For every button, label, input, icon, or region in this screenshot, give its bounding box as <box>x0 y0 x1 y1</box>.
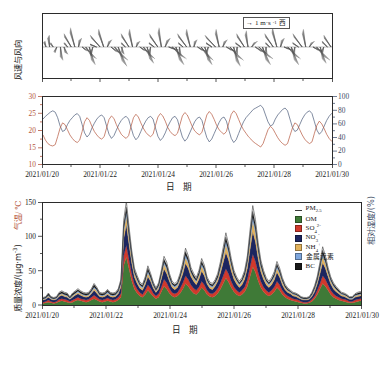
meteo-left-tick-1: 25 <box>18 110 36 117</box>
composition-y-tick-1: 100 <box>18 233 36 240</box>
wind-scale-exponent: -1 <box>273 19 277 27</box>
meteo-right-ticks <box>333 96 339 166</box>
legend-label-BC: BC <box>306 262 315 270</box>
composition-date-tick-3: 2021/01/26 <box>205 312 263 319</box>
legend-label-PM2.5: PM2.5 <box>306 204 322 215</box>
legend-swatch-PM2.5 <box>295 207 302 214</box>
legend-swatch-SO4 <box>295 225 302 232</box>
composition-y-tick-2: 50 <box>18 268 36 275</box>
composition-date-tick-0: 2021/01/20 <box>13 312 71 319</box>
meteo-left-ticks <box>37 96 43 166</box>
wind-scale-legend: →1 m·s-1 西 <box>243 17 290 29</box>
legend-swatch-NH4 <box>295 244 302 251</box>
meteo-date-tick-2: 2021/01/24 <box>129 171 187 178</box>
legend-swatch-metals <box>295 253 302 260</box>
composition-date-tick-2: 2021/01/24 <box>141 312 199 319</box>
wind-x-ticks <box>42 79 334 84</box>
meteo-date-tick-0: 2021/01/20 <box>13 171 71 178</box>
meteo-left-tick-2: 20 <box>18 127 36 134</box>
meteo-right-tick-2: 60 <box>338 120 345 127</box>
composition-panel: 质量浓度/(μg·m-3) 150 100 50 0 <box>0 190 372 366</box>
meteo-right-tick-4: 20 <box>338 147 345 154</box>
meteo-right-tick-3: 40 <box>338 134 345 141</box>
meteo-date-tick-1: 2021/01/22 <box>71 171 129 178</box>
composition-date-tick-4: 2021/01/28 <box>269 312 327 319</box>
legend-label-metals: 金属元素 <box>306 253 334 261</box>
meteo-right-tick-0: 100 <box>338 93 349 100</box>
composition-legend: PM2.5 OM SO42- NO3- NH4+ 金属元素 BC <box>295 206 334 270</box>
wind-arrow-icon: → <box>246 19 253 27</box>
meteo-plot-area <box>42 96 333 165</box>
composition-y-axis-label-exponent: -3 <box>12 248 18 254</box>
composition-y-tick-0: 150 <box>18 199 36 206</box>
wind-y-axis-label: 风速与风向 <box>11 40 23 80</box>
composition-y-tick-3: 0 <box>18 302 36 309</box>
wind-direction-label: 西 <box>279 19 286 27</box>
legend-item-PM2.5[interactable]: PM2.5 <box>295 206 334 214</box>
meteo-date-tick-3: 2021/01/26 <box>187 171 245 178</box>
composition-x-axis-label: 日 期 <box>172 323 200 335</box>
meteo-left-tick-4: 10 <box>18 161 36 168</box>
legend-item-metals[interactable]: 金属元素 <box>295 253 334 261</box>
composition-y-axis-label-tail: ) <box>13 244 23 247</box>
legend-swatch-OM <box>295 216 302 223</box>
meteo-left-tick-0: 30 <box>18 93 36 100</box>
composition-date-tick-5: 2021/01/30 <box>333 312 384 319</box>
meteo-left-tick-3: 15 <box>18 144 36 151</box>
composition-date-tick-1: 2021/01/22 <box>77 312 135 319</box>
legend-item-BC[interactable]: BC <box>295 262 334 270</box>
legend-swatch-NO3 <box>295 235 302 242</box>
meteo-date-tick-4: 2021/01/28 <box>245 171 303 178</box>
meteo-right-tick-1: 80 <box>338 107 345 114</box>
meteo-panel: 气温/ ℃ 相对湿度/(%) 30 25 20 15 10 100 80 60 … <box>0 90 372 190</box>
wind-scale-value: 1 m·s <box>255 19 271 27</box>
wind-panel: 风速与风向 →1 m·s-1 西 <box>0 0 372 90</box>
legend-swatch-BC <box>295 263 302 270</box>
figure-caption <box>28 360 358 366</box>
legend-item-NH4[interactable]: NH4+ <box>295 244 334 252</box>
meteo-date-tick-5: 2021/01/30 <box>303 171 361 178</box>
